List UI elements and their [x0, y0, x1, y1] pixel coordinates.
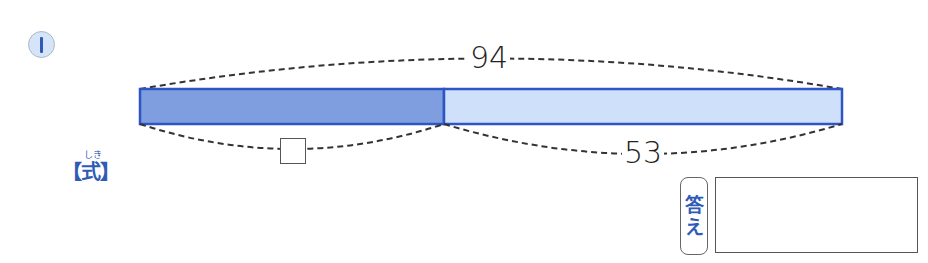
formula-label: 【式】 [62, 160, 119, 184]
answer-label: 答 え [680, 177, 708, 255]
answer-input-box[interactable] [715, 177, 918, 253]
known-part-value: 53 [622, 138, 664, 168]
formula-heading: しき 【式】 [62, 150, 119, 184]
unknown-segment [140, 89, 444, 124]
answer-label-line1: 答 [685, 194, 704, 216]
known-segment [444, 89, 842, 124]
total-value: 94 [468, 43, 510, 73]
formula-ruby: しき [66, 150, 119, 160]
unknown-value-box [280, 138, 306, 164]
answer-label-line2: え [685, 216, 704, 238]
